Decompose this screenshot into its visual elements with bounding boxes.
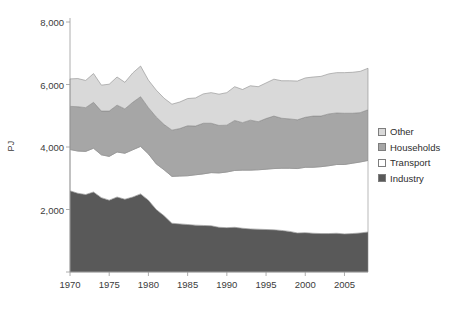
legend-item-households[interactable]: Households	[378, 140, 473, 156]
x-axis-tick-label: 1975	[99, 279, 120, 290]
chart-legend: OtherHouseholdsTransportIndustry	[378, 124, 473, 186]
legend-swatch-icon	[378, 143, 386, 151]
legend-item-transport[interactable]: Transport	[378, 155, 473, 171]
legend-swatch-icon	[378, 128, 386, 136]
legend-item-label: Other	[390, 127, 414, 137]
legend-item-industry[interactable]: Industry	[378, 171, 473, 187]
x-axis-tick-label: 2000	[295, 279, 316, 290]
x-axis-tick-label: 1970	[59, 279, 80, 290]
legend-swatch-icon	[378, 159, 386, 167]
legend-item-other[interactable]: Other	[378, 124, 473, 140]
x-axis-tick-label: 1990	[216, 279, 237, 290]
legend-item-label: Households	[390, 143, 440, 153]
stacked-area-chart: 2,0004,0006,0008,000 PJ 1970197519801985…	[0, 0, 475, 311]
x-axis-tick-label: 2005	[334, 279, 355, 290]
legend-swatch-icon	[378, 174, 386, 182]
legend-item-label: Transport	[390, 158, 430, 168]
x-axis-tick-label: 1980	[138, 279, 159, 290]
x-axis-tick-label: 1985	[177, 279, 198, 290]
x-axis-tick-label: 1995	[255, 279, 276, 290]
legend-item-label: Industry	[390, 174, 424, 184]
